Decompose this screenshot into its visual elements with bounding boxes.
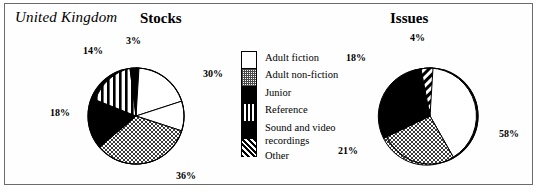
pct-label-issues-other: 4% bbox=[410, 32, 425, 43]
legend-swatch-reference bbox=[242, 104, 256, 121]
pct-label-stocks-adult-nonfiction: 36% bbox=[176, 170, 196, 181]
pie-chart-stocks bbox=[77, 57, 197, 177]
pct-label-stocks-sound: 3% bbox=[126, 35, 141, 46]
legend-swatch-adult-non-fiction bbox=[242, 69, 256, 86]
legend-item-adult-fiction: Adult fiction bbox=[265, 49, 361, 66]
legend-swatch-other bbox=[242, 139, 256, 157]
legend-item-other: Other bbox=[265, 147, 361, 164]
legend-swatch-sound-and-video bbox=[242, 122, 256, 139]
legend-swatch-column bbox=[241, 51, 257, 157]
legend-swatch-adult-fiction bbox=[242, 52, 256, 69]
figure-frame: United Kingdom Stocks Issues bbox=[4, 3, 533, 185]
legend-item-junior: Junior bbox=[265, 84, 361, 101]
legend-item-sound-and-video-recordings: Sound and videorecordings bbox=[265, 119, 361, 147]
pct-label-stocks-junior: 18% bbox=[50, 107, 70, 118]
legend-item-adult-non-fiction: Adult non-fiction bbox=[265, 66, 361, 83]
pie-svg-issues bbox=[371, 57, 491, 177]
legend-label-column: Adult fiction Adult non-fiction Junior R… bbox=[265, 49, 361, 164]
pct-label-stocks-reference: 14% bbox=[83, 45, 103, 56]
legend-item-reference: Reference bbox=[265, 101, 361, 118]
pct-label-issues-adult-fiction: 58% bbox=[499, 128, 519, 139]
legend-item-sound-line1: Sound and video bbox=[265, 121, 361, 134]
pie-chart-issues bbox=[371, 57, 491, 177]
legend-swatch-junior bbox=[242, 87, 256, 104]
legend-item-sound-line2: recordings bbox=[265, 134, 361, 147]
chart-title-issues: Issues bbox=[390, 10, 428, 27]
pct-label-stocks-adult-fiction: 30% bbox=[203, 68, 223, 79]
pie-svg-stocks bbox=[77, 57, 197, 177]
country-label: United Kingdom bbox=[15, 9, 117, 26]
chart-title-stocks: Stocks bbox=[140, 10, 182, 27]
legend: Adult fiction Adult non-fiction Junior R… bbox=[241, 51, 359, 163]
